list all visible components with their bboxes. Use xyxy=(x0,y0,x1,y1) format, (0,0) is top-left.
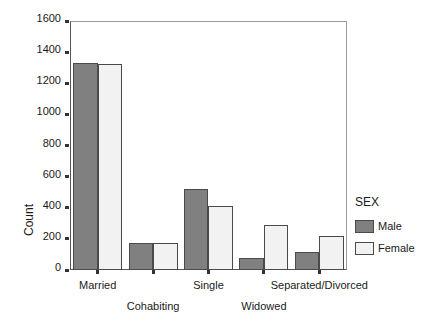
bar-male xyxy=(129,243,154,270)
bar-male xyxy=(295,252,320,270)
bar-female xyxy=(208,206,233,270)
x-axis-labels: MarriedCohabitingSingleWidowedSeparated/… xyxy=(0,270,432,322)
bar-male xyxy=(239,258,264,270)
bar-female xyxy=(98,64,123,270)
bar-female xyxy=(319,236,344,270)
x-axis-label: Separated/Divorced xyxy=(271,279,368,291)
legend: SEX Male Female xyxy=(355,196,432,264)
y-axis-tick-label: 1000 xyxy=(37,106,61,117)
legend-label-female: Female xyxy=(378,243,415,254)
legend-swatch-male xyxy=(355,220,374,233)
y-axis-tick-label: 1200 xyxy=(37,75,61,86)
y-axis-tick-label: 400 xyxy=(43,200,61,211)
y-axis-tick-mark xyxy=(65,51,69,54)
y-axis-tick-label: 200 xyxy=(43,231,61,242)
y-axis-tick-mark xyxy=(65,237,69,240)
bar-group xyxy=(292,21,347,270)
y-axis-tick-mark xyxy=(65,113,69,116)
bar-female xyxy=(153,243,178,270)
y-axis-tick-mark xyxy=(65,206,69,209)
legend-title: SEX xyxy=(355,196,432,209)
x-axis-label: Single xyxy=(193,279,224,291)
bar-male xyxy=(73,63,98,270)
y-axis-tick-mark xyxy=(65,144,69,147)
bar-group xyxy=(181,21,236,270)
y-axis-tick-label: 600 xyxy=(43,169,61,180)
bar-chart-figure: 02004006008001000120014001600 Count Marr… xyxy=(0,0,432,322)
x-axis-label: Married xyxy=(79,279,116,291)
y-axis-tick-mark xyxy=(65,175,69,178)
bar-male xyxy=(184,189,209,270)
legend-item-female: Female xyxy=(355,242,432,255)
legend-item-male: Male xyxy=(355,220,432,233)
legend-label-male: Male xyxy=(378,221,402,232)
legend-swatch-female xyxy=(355,242,374,255)
y-axis-tick-mark xyxy=(65,82,69,85)
y-axis-tick-label: 800 xyxy=(43,138,61,149)
bar-group xyxy=(236,21,291,270)
y-axis-title: Count xyxy=(23,185,35,255)
bar-female xyxy=(264,225,289,270)
y-axis-tick-label: 1600 xyxy=(37,13,61,24)
y-axis-tick-mark xyxy=(65,20,69,23)
x-axis-label: Cohabiting xyxy=(127,300,180,312)
y-axis-tick-label: 1400 xyxy=(37,44,61,55)
bar-group xyxy=(125,21,180,270)
bars-layer xyxy=(70,21,347,270)
x-axis-label: Widowed xyxy=(241,300,286,312)
bar-group xyxy=(70,21,125,270)
